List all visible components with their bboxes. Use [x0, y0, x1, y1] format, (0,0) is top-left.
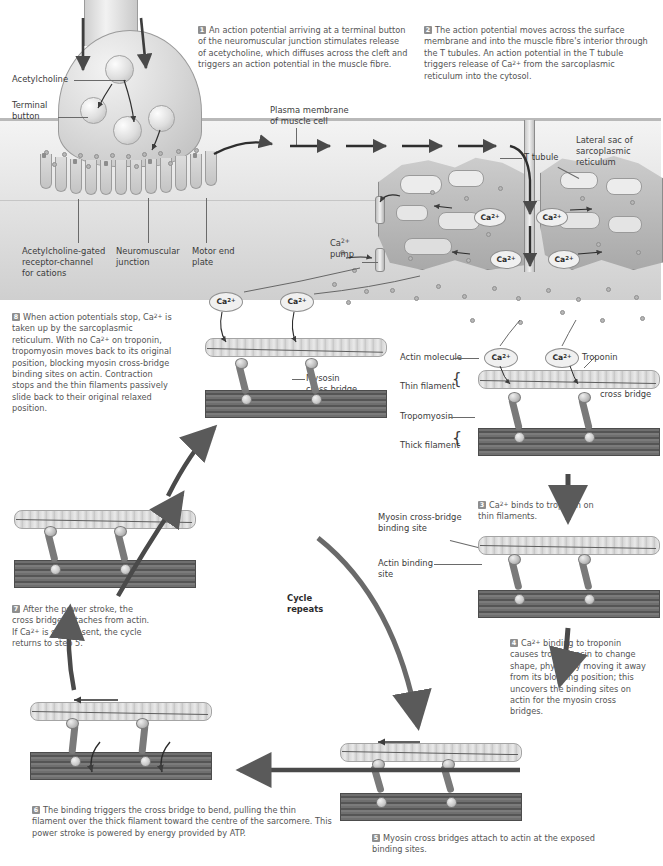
- ca-charge: 2+: [563, 353, 571, 359]
- step-4-number: 4: [510, 639, 518, 647]
- ca-text: Ca: [287, 297, 298, 306]
- step-5-number: 5: [372, 834, 380, 842]
- step-8-body: When action potentials stop, Ca2+ is tak…: [12, 312, 172, 413]
- label-t-tubule: T tubule: [524, 152, 558, 163]
- sarcomere-step8: [205, 328, 385, 428]
- ca-ion-label-b1: Ca2+: [484, 348, 518, 368]
- sarcomere-labelled: [478, 360, 658, 465]
- ca-pump-shape: [375, 248, 385, 272]
- ca-charge: 2+: [565, 255, 573, 261]
- step-3-number: 3: [478, 501, 486, 509]
- ca-charge: 2+: [507, 255, 515, 261]
- label-lateral-sac: Lateral sac ofsarcoplasmicreticulum: [576, 135, 633, 168]
- step-4-text-block: 4Ca2+ binding to troponin causes tropomy…: [510, 638, 650, 718]
- sarcomere-step6: [30, 690, 210, 790]
- ca-charge: 2+: [553, 213, 561, 219]
- step-2-number: 2: [424, 26, 432, 34]
- ca-text: Ca: [491, 353, 502, 362]
- label-tropomyosin: Tropomyosin: [400, 411, 453, 422]
- ca-text: Ca: [554, 255, 565, 264]
- ca-charge: 2+: [491, 213, 499, 219]
- ca-ion-label-sr-3: Ca2+: [490, 250, 522, 269]
- step-5-text-block: 5Myosin cross bridges attach to actin at…: [372, 833, 612, 856]
- step-2-body: The action potential moves across the su…: [424, 25, 648, 81]
- sarcomere-step3: [478, 528, 658, 628]
- step-7-body: After the power stroke, the cross bridge…: [12, 604, 149, 648]
- t-tubule-shape: [524, 120, 535, 272]
- label-terminal-button: Terminalbutton: [12, 100, 47, 122]
- label-ca-pump: Ca2+pump: [330, 238, 354, 260]
- ca-text: Ca: [496, 255, 507, 264]
- ca-ion-label-sr-2: Ca2+: [536, 208, 568, 227]
- ca-ion-label-a2: Ca2+: [280, 292, 314, 312]
- sarcomere-step7: [14, 500, 194, 595]
- ca-ion-label-a1: Ca2+: [209, 292, 243, 312]
- step-2-text-block: 2The action potential moves across the s…: [424, 25, 649, 82]
- ca-pump-shape: [375, 196, 385, 224]
- label-acetylcholine: Acetylcholine: [12, 74, 68, 85]
- label-thick-filament: Thick filament: [400, 440, 460, 451]
- ca-charge: 2+: [298, 297, 306, 303]
- label-myosin-binding-site: Myosin cross-bridgebinding site: [378, 512, 462, 534]
- label-thin-filament: Thin filament: [400, 381, 455, 392]
- label-motor-end-plate: Motor endplate: [192, 246, 235, 268]
- step-8-text-block: 8When action potentials stop, Ca2+ is ta…: [12, 312, 172, 415]
- brace-thick-filament: {: [452, 432, 462, 443]
- ca-ion-label-sr-4: Ca2+: [548, 250, 580, 269]
- label-actin-binding-site: Actin bindingsite: [378, 558, 433, 580]
- ca-text: Ca: [552, 353, 563, 362]
- ca-charge: 2+: [227, 297, 235, 303]
- brace-thin-filament: {: [452, 374, 462, 385]
- label-plasma-membrane: Plasma membraneof muscle cell: [270, 105, 349, 127]
- vesicle: [80, 97, 107, 124]
- sarcomere-step5: [340, 735, 520, 830]
- label-cycle-repeats: Cyclerepeats: [287, 593, 323, 615]
- step-5-body: Myosin cross bridges attach to actin at …: [372, 833, 595, 854]
- label-ach-receptor: Acetylcholine-gatedreceptor-channelfor c…: [22, 246, 105, 279]
- step-3-body: Ca2+ binds to troponin on thin filaments…: [478, 500, 594, 521]
- vesicle: [148, 105, 175, 132]
- terminal-button-shape: [58, 30, 202, 167]
- step-8-number: 8: [12, 313, 20, 321]
- step-7-number: 7: [12, 605, 20, 613]
- ca-ion-label-b2: Ca2+: [545, 348, 579, 368]
- step-1-number: 1: [198, 26, 206, 34]
- label-neuromuscular-junction: Neuromuscularjunction: [116, 246, 180, 268]
- step-6-text-block: 6The binding triggers the cross bridge t…: [32, 805, 332, 839]
- ca-text: Ca: [216, 297, 227, 306]
- ca-text: Ca: [542, 213, 553, 222]
- ca-charge: 2+: [502, 353, 510, 359]
- step-3-text-block: 3Ca2+ binds to troponin on thin filament…: [478, 500, 598, 523]
- ca-text: Ca: [480, 213, 491, 222]
- vesicle: [113, 116, 142, 145]
- step-7-text-block: 7After the power stroke, the cross bridg…: [12, 604, 152, 650]
- synaptic-folds: [38, 148, 228, 190]
- ca-ion-label-sr-1: Ca2+: [474, 208, 506, 227]
- step-6-number: 6: [32, 806, 40, 814]
- step-1-text-block: 1An action potential arriving at a termi…: [198, 25, 408, 71]
- step-4-body: Ca2+ binding to troponin causes tropomyo…: [510, 638, 646, 716]
- step-6-body: The binding triggers the cross bridge to…: [32, 805, 332, 838]
- step-1-body: An action potential arriving at a termin…: [198, 25, 407, 69]
